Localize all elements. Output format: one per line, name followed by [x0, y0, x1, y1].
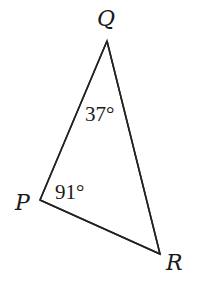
triangle-pqr [40, 41, 160, 254]
triangle-diagram: Q P R 37° 91° [0, 0, 203, 294]
angle-label-p: 91° [55, 180, 84, 204]
side-pr [40, 200, 160, 254]
angle-label-q: 37° [85, 102, 114, 126]
side-qr [107, 41, 160, 254]
vertex-label-r: R [165, 250, 183, 275]
vertex-label-p: P [14, 190, 31, 215]
vertex-label-q: Q [97, 6, 115, 31]
